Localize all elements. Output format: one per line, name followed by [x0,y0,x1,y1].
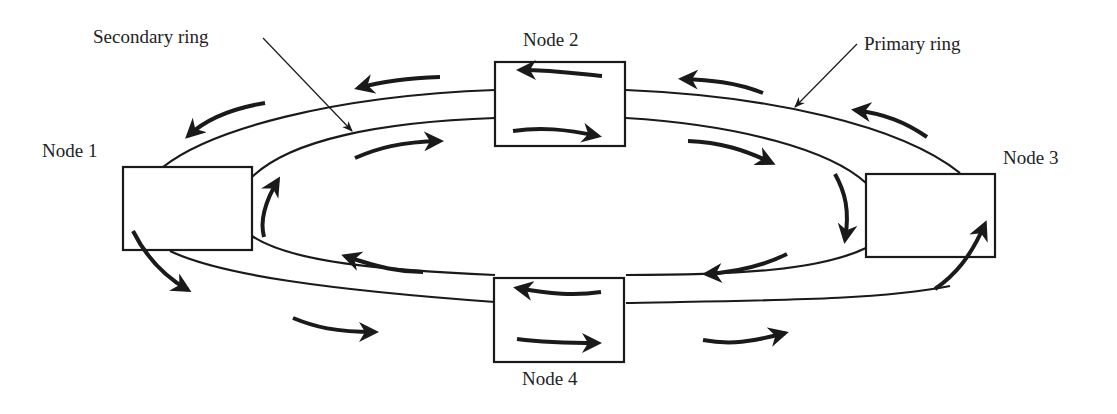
secondary-flow-arrows [262,129,847,294]
secondary-ring-leader-arrow [263,38,352,131]
primary-ring-leader-arrow [795,44,857,107]
flow-arrow-icon [262,180,278,237]
dual-ring-diagram: Secondary ring Primary ring Node 1 Node … [0,0,1117,414]
flow-arrow-icon [358,77,440,88]
secondary-ring-segment-n1-n2 [252,118,495,177]
node-3-label: Node 3 [1003,147,1058,168]
flow-arrow-icon [703,333,785,342]
flow-arrow-icon [355,141,440,158]
node-1-box[interactable] [123,167,252,250]
primary-ring-label: Primary ring [864,33,961,54]
flow-arrow-icon [835,174,847,240]
secondary-ring-segment-n3-n4 [626,248,866,275]
secondary-ring-label: Secondary ring [93,26,209,47]
secondary-ring-segment-n4-n1 [252,236,495,275]
node-2-label: Node 2 [523,29,578,50]
primary-ring-segment-n4-n1 [170,251,495,302]
flow-arrow-icon [855,110,927,137]
flow-arrow-icon [188,103,265,136]
primary-ring-segment-n2-n3 [626,90,960,173]
primary-ring-segment-n1-n2 [163,90,495,167]
primary-ring-segment-n3-n4 [626,286,950,303]
node-4-box[interactable] [494,278,624,362]
flow-arrow-icon [682,79,763,93]
node-1-label: Node 1 [42,140,97,161]
node-2-box[interactable] [495,62,625,146]
flow-arrow-icon [688,141,772,163]
flow-arrow-icon [293,318,375,332]
node-4-label: Node 4 [522,368,578,389]
